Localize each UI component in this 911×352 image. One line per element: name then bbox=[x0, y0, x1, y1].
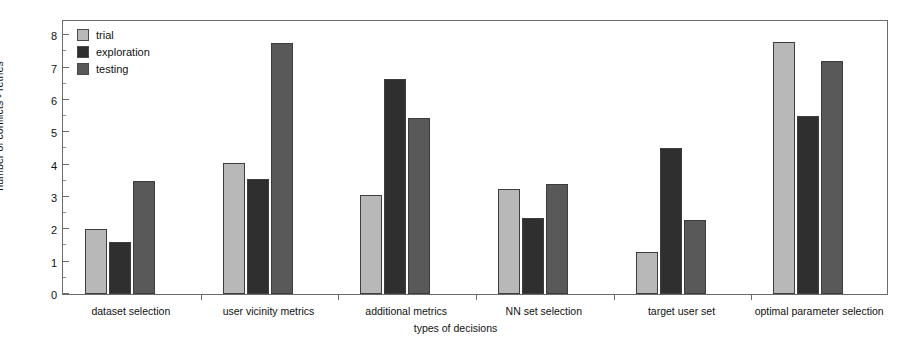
y-tick-label: 6 bbox=[31, 95, 57, 107]
y-tick-label: 7 bbox=[31, 63, 57, 75]
x-tick-mark bbox=[751, 294, 752, 300]
bar bbox=[773, 42, 795, 294]
y-minor-tick-mark bbox=[63, 50, 66, 51]
bar bbox=[271, 43, 293, 294]
y-tick-mark bbox=[63, 67, 69, 68]
legend-item: testing bbox=[77, 61, 150, 76]
bar bbox=[247, 179, 269, 294]
bar bbox=[360, 195, 382, 294]
y-tick-mark bbox=[63, 34, 69, 35]
bar bbox=[384, 79, 406, 294]
x-tick-mark bbox=[476, 294, 477, 300]
legend-label: trial bbox=[96, 29, 114, 41]
y-tick-mark bbox=[63, 196, 69, 197]
legend-label: exploration bbox=[96, 46, 150, 58]
legend-item: exploration bbox=[77, 44, 150, 59]
bar bbox=[797, 116, 819, 294]
bar bbox=[85, 229, 107, 294]
y-tick-label: 0 bbox=[31, 289, 57, 301]
x-category-label: optimal parameter selection bbox=[755, 305, 884, 317]
y-tick-mark bbox=[63, 99, 69, 100]
x-category-label: NN set selection bbox=[506, 305, 582, 317]
bar bbox=[660, 148, 682, 294]
y-minor-tick-mark bbox=[63, 244, 66, 245]
bar bbox=[408, 118, 430, 294]
y-minor-tick-mark bbox=[63, 212, 66, 213]
bar-chart-figure: number of conflicts - retries 012345678 … bbox=[0, 0, 911, 352]
plot-area: 012345678 trialexplorationtesting bbox=[62, 20, 888, 295]
y-tick-label: 1 bbox=[31, 257, 57, 269]
bar bbox=[821, 61, 843, 294]
bar bbox=[498, 189, 520, 294]
x-tick-mark bbox=[338, 294, 339, 300]
legend-label: testing bbox=[96, 63, 128, 75]
legend-item: trial bbox=[77, 27, 150, 42]
y-tick-label: 8 bbox=[31, 30, 57, 42]
bar bbox=[522, 218, 544, 294]
y-minor-tick-mark bbox=[63, 147, 66, 148]
y-tick-label: 3 bbox=[31, 192, 57, 204]
y-minor-tick-mark bbox=[63, 277, 66, 278]
y-tick-mark bbox=[63, 131, 69, 132]
y-tick-label: 4 bbox=[31, 160, 57, 172]
x-category-label: dataset selection bbox=[91, 305, 170, 317]
y-tick-mark bbox=[63, 228, 69, 229]
y-tick-mark bbox=[63, 164, 69, 165]
bar bbox=[223, 163, 245, 294]
x-axis-title: types of decisions bbox=[0, 322, 911, 334]
y-tick-mark bbox=[63, 261, 69, 262]
y-tick-mark bbox=[63, 293, 69, 294]
chart-legend: trialexplorationtesting bbox=[77, 27, 150, 78]
bar bbox=[636, 252, 658, 294]
y-axis-title: number of conflicts - retries bbox=[0, 0, 5, 291]
legend-swatch-icon bbox=[77, 46, 89, 58]
y-minor-tick-mark bbox=[63, 83, 66, 84]
y-tick-label: 2 bbox=[31, 224, 57, 236]
bar bbox=[133, 181, 155, 294]
legend-swatch-icon bbox=[77, 29, 89, 41]
y-minor-tick-mark bbox=[63, 115, 66, 116]
x-tick-mark bbox=[614, 294, 615, 300]
bar bbox=[684, 220, 706, 294]
bar bbox=[109, 242, 131, 294]
y-tick-label: 5 bbox=[31, 127, 57, 139]
y-minor-tick-mark bbox=[63, 180, 66, 181]
bar bbox=[546, 184, 568, 294]
x-category-label: user vicinity metrics bbox=[223, 305, 315, 317]
x-category-label: additional metrics bbox=[365, 305, 447, 317]
x-tick-mark bbox=[201, 294, 202, 300]
x-category-label: target user set bbox=[648, 305, 715, 317]
legend-swatch-icon bbox=[77, 63, 89, 75]
